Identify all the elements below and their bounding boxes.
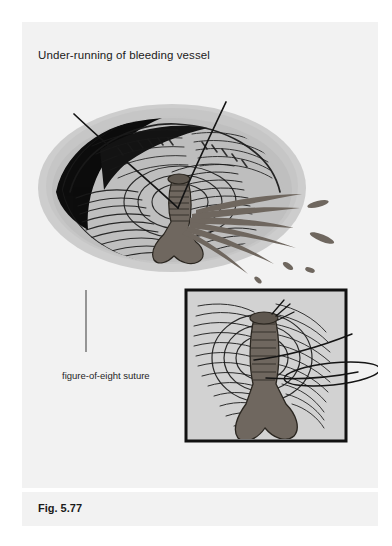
surgical-illustration xyxy=(22,22,378,488)
figure-caption-bar: Fig. 5.77 xyxy=(22,492,378,526)
figure-caption: Fig. 5.77 xyxy=(38,502,82,514)
annotation-label-figure-of-eight-suture: figure-of-eight suture xyxy=(62,370,150,381)
inset-detail xyxy=(186,290,378,441)
textbook-page: Under-running of bleeding vessel xyxy=(22,22,378,488)
